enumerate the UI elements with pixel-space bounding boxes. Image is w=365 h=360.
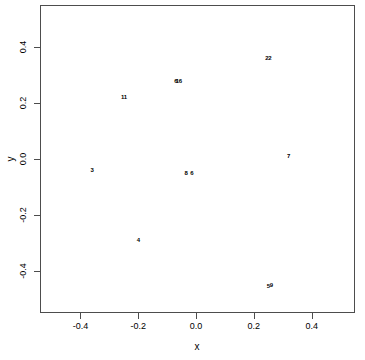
y-tick-mark — [34, 215, 40, 216]
x-tick-label: 0.2 — [248, 321, 261, 331]
data-point-label: 8 — [184, 170, 187, 176]
y-axis-title: y — [5, 149, 16, 169]
plot-frame — [40, 5, 355, 313]
data-point-label: 4 — [137, 237, 140, 243]
x-tick-mark — [196, 313, 197, 319]
data-point-label: 3 — [90, 167, 93, 173]
x-tick-label: -0.4 — [73, 321, 89, 331]
data-point-label: 6 — [190, 170, 193, 176]
data-point-label: 7 — [287, 153, 290, 159]
x-tick-label: 0.4 — [305, 321, 318, 331]
y-tick-label: -0.4 — [18, 260, 28, 282]
y-tick-mark — [34, 271, 40, 272]
scatter-plot: -0.4-0.20.00.20.4 0.40.20.0-0.2-0.4 2261… — [0, 0, 365, 360]
data-point-label: 16 — [176, 78, 182, 84]
y-tick-mark — [34, 159, 40, 160]
y-tick-label: 0.0 — [18, 148, 28, 170]
x-tick-mark — [80, 313, 81, 319]
data-point-label: 22 — [265, 55, 271, 61]
y-tick-label: -0.2 — [18, 204, 28, 226]
data-point-label: 9 — [270, 282, 273, 288]
y-tick-label: 0.2 — [18, 92, 28, 114]
x-tick-mark — [138, 313, 139, 319]
y-tick-label: 0.4 — [18, 36, 28, 58]
x-axis-title: x — [195, 341, 200, 352]
x-tick-label: -0.2 — [130, 321, 146, 331]
x-tick-mark — [312, 313, 313, 319]
x-tick-mark — [254, 313, 255, 319]
x-tick-label: 0.0 — [190, 321, 203, 331]
y-tick-mark — [34, 103, 40, 104]
data-point-label: 11 — [121, 94, 127, 100]
y-tick-mark — [34, 47, 40, 48]
